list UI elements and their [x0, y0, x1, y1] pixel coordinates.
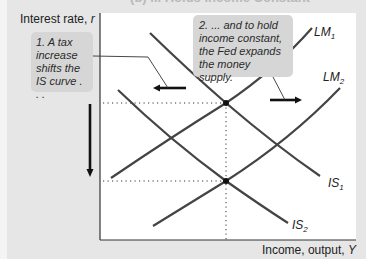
callout-tax-increase: 1. A tax increase shifts the IS curve . … [31, 32, 93, 92]
callout-fed-expands: 2. ... and to hold income constant, the … [193, 15, 293, 77]
down-arrow-icon [87, 104, 94, 177]
x-axis-label: Income, output, Y [262, 243, 356, 257]
x-axis-symbol: Y [348, 243, 356, 257]
equilibrium-point-initial [223, 100, 229, 106]
equilibrium-point-new [223, 178, 229, 184]
